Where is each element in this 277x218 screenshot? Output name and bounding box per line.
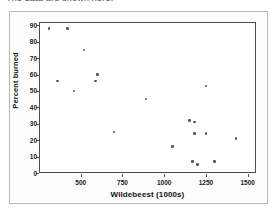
data-point [66, 27, 69, 30]
y-tick-label: 30 [15, 120, 37, 127]
x-tick-label: 500 [66, 179, 96, 186]
x-tick-mark [248, 174, 249, 177]
y-tick-label: 40 [15, 104, 37, 111]
scatter-plot: Percent burned Wildebeest (1000s) 010203… [0, 0, 277, 218]
y-tick-label: 0 [15, 170, 37, 177]
data-point [171, 145, 174, 148]
data-point [96, 73, 99, 76]
data-point [191, 160, 194, 163]
x-tick-label: 1250 [191, 179, 221, 186]
x-tick-mark [122, 174, 123, 177]
data-point [196, 163, 199, 166]
data-point [213, 160, 216, 163]
plot-axes-frame [39, 22, 256, 173]
y-tick-label: 10 [15, 153, 37, 160]
y-tick-label: 20 [15, 137, 37, 144]
y-tick-label: 90 [15, 22, 37, 29]
x-tick-label: 750 [107, 179, 137, 186]
data-point [235, 137, 238, 140]
x-tick-label: 1000 [149, 179, 179, 186]
data-point [205, 132, 208, 135]
screenshot-root: The data are shown here: Percent burned … [0, 0, 277, 218]
x-tick-mark [164, 174, 165, 177]
y-tick-label: 50 [15, 87, 37, 94]
x-tick-label: 1500 [233, 179, 263, 186]
x-axis-label: Wildebeest (1000s) [39, 190, 256, 199]
x-tick-mark [206, 174, 207, 177]
y-tick-label: 60 [15, 71, 37, 78]
data-point [193, 132, 196, 135]
data-point [188, 119, 191, 122]
y-tick-label: 80 [15, 38, 37, 45]
x-tick-mark [81, 174, 82, 177]
y-tick-label: 70 [15, 55, 37, 62]
